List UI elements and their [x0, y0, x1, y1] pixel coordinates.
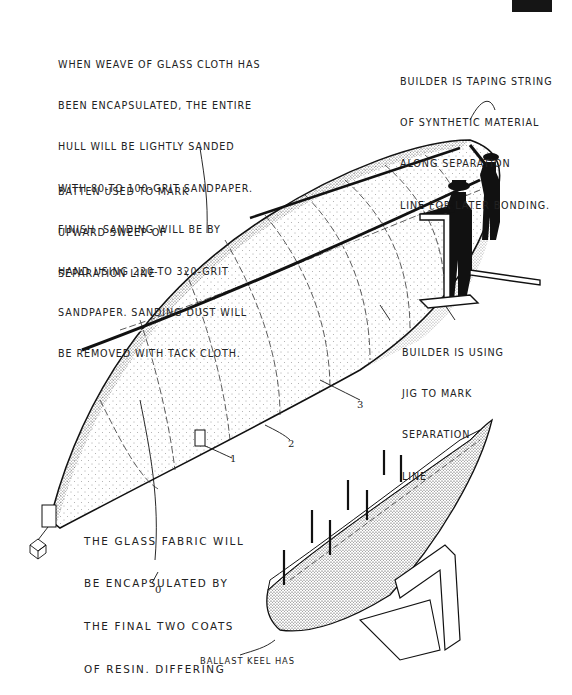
callout-line: HULL WILL BE LIGHTLY SANDED [58, 140, 260, 154]
callout-line: BATTEN USED TO MARK [58, 185, 189, 199]
callout-line: SANDPAPER. SANDING DUST WILL [58, 306, 260, 320]
callout-line: SEPARATION [402, 428, 504, 442]
callout-line: WHEN WEAVE OF GLASS CLOTH HAS [58, 58, 260, 72]
callout-line: SEPARATION LINE [58, 267, 189, 281]
callout-jig: BUILDER IS USING JIG TO MARK SEPARATION … [402, 318, 504, 497]
callout-line: BALLAST KEEL HAS [200, 655, 304, 668]
callout-line: LINE FOR LATER BONDING. [400, 199, 553, 213]
block-icon [30, 539, 46, 559]
callout-line: BEEN ENCAPSULATED, THE ENTIRE [58, 99, 260, 113]
callout-line: JIG TO MARK [402, 387, 504, 401]
svg-text:2: 2 [288, 438, 294, 449]
callout-line: BE ENCAPSULATED BY [84, 576, 244, 590]
callout-line: BE REMOVED WITH TACK CLOTH. [58, 347, 260, 361]
callout-batten: BATTEN USED TO MARK UPWARD SWEEP OF SEPA… [58, 157, 189, 295]
callout-line: LINE [402, 470, 504, 484]
callout-line: THE GLASS FABRIC WILL [84, 534, 244, 548]
callout-line: BUILDER IS TAPING STRING [400, 75, 553, 89]
callout-line: ALONG SEPARATION [400, 157, 553, 171]
callout-line: BUILDER IS USING [402, 346, 504, 360]
callout-line: OF SYNTHETIC MATERIAL [400, 116, 553, 130]
callout-ballast-keel: BALLAST KEEL HAS BEEN FIBERGLASSED [200, 630, 304, 695]
callout-line: UPWARD SWEEP OF [58, 226, 189, 240]
svg-text:1: 1 [230, 453, 236, 464]
callout-taping: BUILDER IS TAPING STRING OF SYNTHETIC MA… [400, 47, 553, 226]
svg-text:3: 3 [357, 399, 363, 410]
